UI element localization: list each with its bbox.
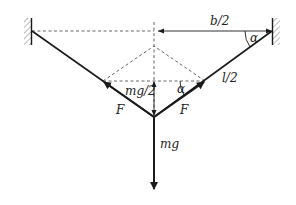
force-left-label: F (115, 103, 125, 117)
weight-label: mg (160, 137, 179, 151)
angle-mid-label: α (177, 82, 185, 96)
half-weight-label: mg/2 (125, 84, 156, 98)
force-right-label: F (179, 103, 189, 117)
half-length-label: l/2 (222, 71, 238, 85)
angle-top-label: α (250, 31, 258, 45)
left-wall (24, 18, 32, 45)
right-wall (273, 18, 281, 45)
half-span-label: b/2 (210, 14, 229, 28)
free-body-diagram: b/2 α l/2 mg/2 α F F mg (0, 0, 296, 205)
